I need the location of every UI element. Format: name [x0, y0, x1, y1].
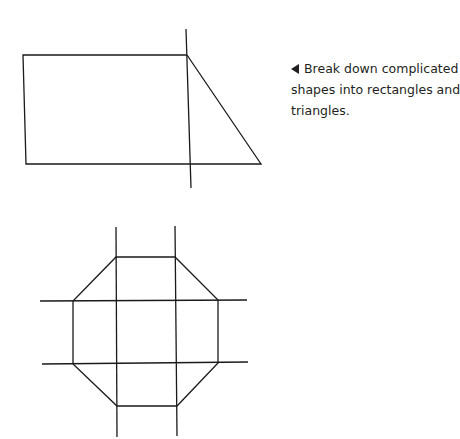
- figure-octagon: [40, 226, 248, 437]
- caption-text: Break down complicated shapes into recta…: [291, 61, 460, 118]
- caption: Break down complicated shapes into recta…: [291, 58, 460, 121]
- figure-trapezoid: [23, 29, 261, 188]
- octagon-outline: [73, 257, 218, 406]
- arrow-left-icon: [291, 64, 299, 74]
- horizontal-line-top: [40, 300, 247, 301]
- rectangle-outline: [23, 55, 261, 164]
